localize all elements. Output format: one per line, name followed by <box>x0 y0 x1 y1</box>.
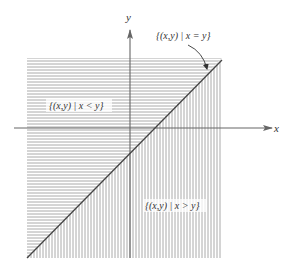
label-x-greater-than-y: {(x,y) | x > y} <box>145 200 199 212</box>
label-x-less-than-y: {(x,y) | x < y} <box>49 100 103 112</box>
x-axis-label: x <box>273 122 279 134</box>
y-axis-label: y <box>125 11 131 23</box>
label-x-equals-y: {(x,y) | x = y} <box>156 30 210 42</box>
set-diagram: x y {(x,y) | x < y} {(x,y) | x > y} {(x,… <box>0 0 286 270</box>
